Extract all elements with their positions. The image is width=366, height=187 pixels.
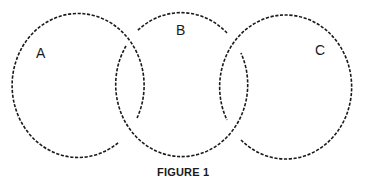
figure-caption: FIGURE 1 [157, 166, 209, 178]
circle-a-outline [12, 13, 144, 157]
circle-b-outline-main [116, 46, 248, 157]
circle-c-label: C [315, 42, 325, 58]
circle-c-outline [220, 15, 352, 159]
circle-a-label: A [36, 45, 45, 61]
circle-b-label: B [176, 22, 185, 38]
